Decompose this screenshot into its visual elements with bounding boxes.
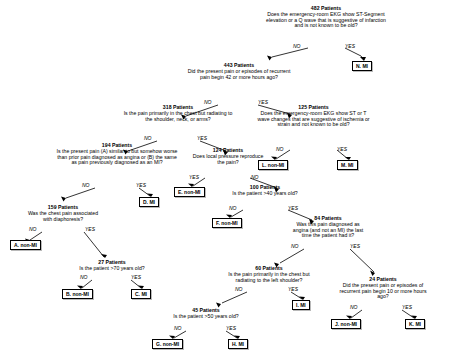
leaf-label: N. MI: [356, 63, 368, 69]
leaf-label: L. non-MI: [262, 162, 284, 168]
leaf-node-i-mi: I. MI: [292, 300, 310, 310]
node-question: Does the emergency-room EKG show ST or T…: [256, 111, 371, 128]
edge-label-no: NO: [174, 325, 182, 331]
node-question: Did the present pain or episodes of recu…: [338, 283, 428, 300]
leaf-label: K. MI: [409, 321, 421, 327]
leaf-node-e-non-mi: E. non-MI: [174, 187, 205, 197]
leaf-node-b-non-mi: B. non-MI: [62, 289, 93, 299]
node-question: Is the present pain (A) similar to but s…: [56, 149, 178, 166]
decision-node-60: 60 Patients Is the pain primarily in the…: [224, 266, 314, 283]
node-question: Is the pain primarily in the chest but r…: [224, 272, 314, 284]
edge-label-yes: YES: [337, 146, 347, 152]
edge-label-no: NO: [204, 99, 212, 105]
decision-node-318: 318 Patients Is the pain primarily in th…: [123, 105, 233, 122]
node-question: Is the pain primarily in the chest but r…: [123, 111, 233, 123]
leaf-label: C. MI: [135, 291, 147, 297]
edge-label-yes: YES: [131, 274, 141, 280]
decision-node-24: 24 Patients Did the present pain or epis…: [338, 277, 428, 300]
leaf-label: F. non-MI: [216, 220, 238, 226]
leaf-node-l-non-mi: L. non-MI: [258, 160, 288, 170]
edge-label-yes: YES: [189, 174, 199, 180]
node-question: Did the present pain or episodes of recu…: [187, 69, 291, 81]
leaf-label: A. non-MI: [14, 242, 37, 248]
edge-label-yes: YES: [136, 182, 146, 188]
leaf-node-g-non-mi: G. non-MI: [152, 339, 183, 349]
leaf-label: I. MI: [296, 302, 306, 308]
edge-label-no: NO: [350, 304, 358, 310]
edge-label-no: NO: [229, 205, 237, 211]
node-question: Was the chest pain associated with diaph…: [23, 211, 103, 223]
decision-node-159: 159 Patients Was the chest pain associat…: [23, 205, 103, 222]
edge-label-no: NO: [291, 243, 299, 249]
edge-label-yes: YES: [288, 205, 298, 211]
edge-label-yes: YES: [197, 135, 207, 141]
leaf-node-k-mi: K. MI: [405, 319, 425, 329]
edge-label-no: NO: [80, 274, 88, 280]
edge-label-no: NO: [29, 226, 37, 232]
edge-label-yes: YES: [345, 43, 355, 49]
leaf-node-n-mi: N. MI: [352, 61, 372, 71]
decision-tree-diagram: 482 Patients Does the emergency-room EKG…: [0, 0, 451, 353]
node-question: Is the patient >70 years old?: [72, 266, 152, 272]
leaf-node-c-mi: C. MI: [131, 289, 151, 299]
edge-label-yes: YES: [288, 286, 298, 292]
decision-node-482: 482 Patients Does the emergency-room EKG…: [266, 6, 386, 29]
decision-node-125: 125 Patients Does the emergency-room EKG…: [256, 105, 371, 128]
leaf-node-f-non-mi: F. non-MI: [212, 218, 242, 228]
leaf-node-m-mi: M. MI: [337, 160, 358, 170]
leaf-node-h-mi: H. MI: [228, 339, 248, 349]
decision-node-124: 124 Patients Does local pressure reprodu…: [189, 148, 267, 165]
decision-node-194: 194 Patients Is the present pain (A) sim…: [56, 143, 178, 166]
leaf-label: G. non-MI: [156, 341, 179, 347]
decision-node-84: 84 Patients Was this pain diagnosed as a…: [288, 216, 368, 239]
leaf-label: J. non-MI: [335, 321, 357, 327]
leaf-label: M. MI: [341, 162, 354, 168]
edge-label-no: NO: [235, 286, 243, 292]
decision-node-45: 45 Patients Is the patient >50 years old…: [166, 308, 246, 320]
node-question: Is the patient >50 years old?: [166, 314, 246, 320]
node-question: Is the patient >40 years old?: [227, 191, 303, 197]
edge-label-no: NO: [293, 43, 301, 49]
leaf-node-a-non-mi: A. non-MI: [10, 240, 41, 250]
edge-label-yes: YES: [350, 243, 360, 249]
edge-label-yes: YES: [258, 99, 268, 105]
leaf-label: D. MI: [143, 199, 155, 205]
leaf-node-d-mi: D. MI: [139, 197, 159, 207]
edge-label-no: NO: [276, 146, 284, 152]
edge-label-yes: YES: [85, 226, 95, 232]
leaf-node-j-non-mi: J. non-MI: [331, 319, 361, 329]
node-question: Does local pressure reproduce the pain?: [189, 154, 267, 166]
leaf-label: B. non-MI: [66, 291, 89, 297]
edge-label-no: NO: [251, 174, 259, 180]
edge-label-yes: YES: [402, 304, 412, 310]
edge-label-no: NO: [144, 135, 152, 141]
node-question: Does the emergency-room EKG show ST-Segm…: [266, 12, 386, 29]
edge-label-no: NO: [82, 182, 90, 188]
decision-node-100: 100 Patients Is the patient >40 years ol…: [227, 185, 303, 197]
decision-node-443: 443 Patients Did the present pain or epi…: [187, 63, 291, 80]
decision-node-27: 27 Patients Is the patient >70 years old…: [72, 260, 152, 272]
leaf-label: E. non-MI: [178, 189, 201, 195]
edge-label-yes: YES: [226, 325, 236, 331]
leaf-label: H. MI: [232, 341, 244, 347]
node-question: Was this pain diagnosed as angina (and n…: [288, 222, 368, 239]
